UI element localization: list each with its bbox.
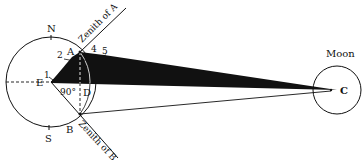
point-a	[79, 51, 82, 54]
label-zenith-a: Zenith of A	[76, 1, 119, 44]
angle-mark-2: 2	[57, 50, 63, 60]
parallax-wedge	[51, 52, 337, 90]
label-moon: Moon	[326, 48, 355, 59]
angle-mark-5: 5	[102, 46, 108, 56]
label-zenith-b: Zenith of B	[77, 119, 119, 163]
line-b-to-moon	[80, 91, 331, 114]
angle-mark-1: 1	[44, 70, 50, 80]
label-north: N	[47, 23, 56, 34]
label-south: S	[45, 133, 52, 144]
point-c	[330, 89, 332, 91]
label-c: C	[340, 85, 348, 96]
label-a: A	[66, 46, 75, 57]
label-b: B	[66, 124, 73, 135]
point-b	[79, 113, 82, 116]
label-d: D	[83, 87, 91, 98]
label-e: E	[36, 77, 43, 88]
parallax-diagram: N S E A B D 90° 1 2 4 5 Zenith of A Zeni…	[0, 0, 362, 164]
label-angle-90: 90°	[60, 87, 76, 97]
angle-mark-4: 4	[91, 44, 97, 54]
